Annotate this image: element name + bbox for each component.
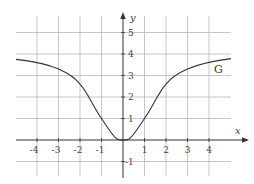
y-tick-label: 2 — [128, 92, 134, 102]
x-tick-label: -2 — [74, 145, 83, 155]
curve-label: G — [214, 63, 223, 76]
x-tick-label: -3 — [52, 145, 61, 155]
x-tick-label: 1 — [142, 145, 148, 155]
y-tick-label: 4 — [128, 49, 134, 59]
x-tick-label: -4 — [30, 145, 39, 155]
y-axis-arrow-icon — [120, 12, 125, 19]
x-tick-label: -1 — [96, 145, 105, 155]
x-tick-label: 2 — [163, 145, 169, 155]
y-tick-label: 3 — [128, 71, 134, 81]
x-tick-label: 3 — [185, 145, 191, 155]
x-axis-arrow-icon — [242, 137, 249, 142]
x-tick-label: 4 — [206, 145, 212, 155]
y-tick-label: 1 — [128, 114, 134, 124]
function-graph: -4 -3 -2 -1 1 2 3 4 5 4 3 2 1 -1 x y G — [0, 0, 254, 184]
y-tick-label: 5 — [128, 28, 134, 38]
y-tick-label: -1 — [125, 157, 134, 167]
y-axis-label: y — [129, 12, 136, 23]
x-axis-label: x — [235, 125, 241, 136]
